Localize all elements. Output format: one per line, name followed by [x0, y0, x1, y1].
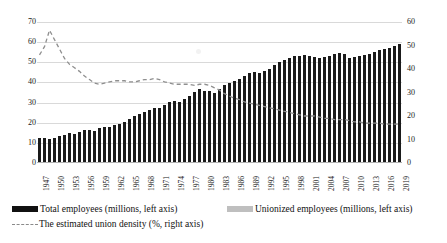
y-axis-left-tick-label: 40 [28, 78, 36, 86]
x-axis-tick-label: 1968 [148, 176, 156, 191]
y-axis-left-tick-label: 0 [32, 159, 36, 167]
y-axis-right-tick-label: 10 [407, 136, 415, 144]
legend-row-1: Total employees (millions, left axis) Un… [12, 199, 437, 214]
x-axis-tick-label: 1947 [43, 176, 51, 191]
y-axis-right-tick-label: 30 [407, 89, 415, 97]
y-axis-right-tick-label: 0 [407, 159, 411, 167]
chart-figure: 010203040506070 0102030405060 1947195019… [0, 0, 447, 243]
x-axis-tick-label: 1965 [133, 176, 141, 191]
x-axis-tick-label: 1962 [118, 176, 126, 191]
density-line-path [40, 30, 400, 124]
legend-label-total-employees: Total employees (millions, left axis) [40, 204, 177, 214]
y-axis-right-tick-label: 40 [407, 65, 415, 73]
x-axis-tick-label: 1998 [298, 176, 306, 191]
y-axis-right-tick-label: 60 [407, 18, 415, 26]
x-axis-tick-label: 1950 [58, 176, 66, 191]
x-axis-tick-label: 2016 [388, 176, 396, 191]
legend-label-unionized-employees: Unionized employees (millions, left axis… [255, 204, 413, 214]
x-axis-tick-label: 1977 [193, 176, 201, 191]
x-axis-tick-label: 1986 [238, 176, 246, 191]
x-axis-tick-label: 1980 [208, 176, 216, 191]
legend-swatch-bar-icon [12, 206, 38, 212]
y-axis-left-tick-label: 20 [28, 119, 36, 127]
x-axis-tick-label: 1983 [223, 176, 231, 191]
legend-swatch-bar-gray-icon [227, 206, 253, 212]
x-axis-tick-label: 1974 [178, 176, 186, 191]
axis-baseline [37, 162, 402, 163]
legend-swatch-dashed-line-icon [12, 221, 38, 227]
legend-label-union-density: The estimated union density (%, right ax… [39, 219, 203, 229]
density-line-series [37, 22, 402, 163]
y-axis-right-tick-label: 20 [407, 112, 415, 120]
x-axis-tick-label: 2010 [358, 176, 366, 191]
y-axis-left-tick-label: 30 [28, 99, 36, 107]
y-axis-left-tick-label: 50 [28, 58, 36, 66]
x-axis-tick-label: 1959 [103, 176, 111, 191]
plot-area [37, 22, 402, 163]
legend-row-2: The estimated union density (%, right ax… [12, 214, 437, 229]
y-axis-right-tick-label: 50 [407, 42, 415, 50]
chart-legend: Total employees (millions, left axis) Un… [12, 199, 437, 229]
legend-item-union-density: The estimated union density (%, right ax… [12, 214, 203, 232]
x-axis-tick-label: 1989 [253, 176, 261, 191]
x-axis-tick-label: 1992 [268, 176, 276, 191]
y-axis-left-tick-label: 70 [28, 18, 36, 26]
x-axis-tick-label: 1971 [163, 176, 171, 191]
x-axis-tick-label: 2001 [313, 176, 321, 191]
x-axis-tick-label: 2004 [328, 176, 336, 191]
y-axis-left-tick-label: 10 [28, 139, 36, 147]
x-axis-tick-label: 1953 [73, 176, 81, 191]
x-axis-tick-label: 2013 [373, 176, 381, 191]
x-axis-tick-label: 1995 [283, 176, 291, 191]
y-axis-left-tick-label: 60 [28, 38, 36, 46]
x-axis-tick-label: 2007 [343, 176, 351, 191]
x-axis-tick-label: 2019 [403, 176, 411, 191]
x-axis-tick-label: 1956 [88, 176, 96, 191]
